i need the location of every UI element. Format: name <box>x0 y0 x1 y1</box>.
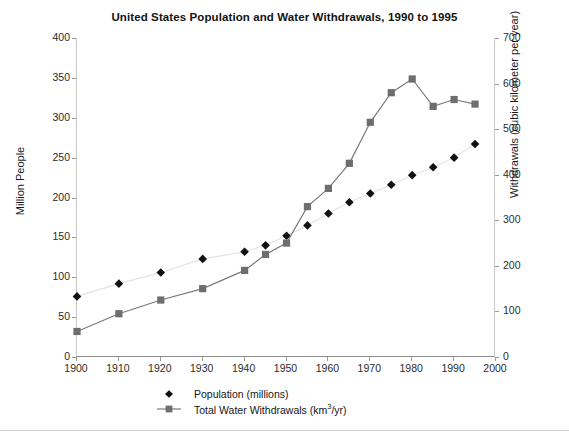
y-axis-right-title: Withdrawals (cubic kilometer per year) <box>508 0 520 198</box>
y-axis-left-tick-label: 200 <box>36 191 70 203</box>
legend-label-withdrawals-suffix: /yr) <box>331 403 346 415</box>
y-axis-left-tick-mark <box>72 198 76 199</box>
x-axis-tick-mark <box>411 357 412 361</box>
data-point-marker <box>471 100 478 107</box>
y-axis-left-tick-mark <box>72 118 76 119</box>
legend-label-withdrawals: Total Water Withdrawals (km3/yr) <box>194 402 347 416</box>
plot-area <box>76 38 495 357</box>
data-point-marker <box>366 189 375 198</box>
y-axis-right-tick-label: 0 <box>503 350 543 362</box>
data-point-marker <box>261 241 270 250</box>
diamond-marker-icon <box>150 388 188 400</box>
y-axis-left-tick-label: 400 <box>36 31 70 43</box>
data-point-marker <box>387 180 396 189</box>
x-axis-tick-mark <box>76 357 77 361</box>
data-point-marker <box>324 209 333 218</box>
data-point-marker <box>283 239 290 246</box>
y-axis-left-tick-mark <box>72 277 76 278</box>
series-line-withdrawals <box>77 79 475 331</box>
y-axis-left-tick-label: 0 <box>36 350 70 362</box>
data-point-marker <box>408 171 417 180</box>
y-axis-left-tick-label: 100 <box>36 270 70 282</box>
x-axis-tick-mark <box>453 357 454 361</box>
y-axis-left-tick-mark <box>72 158 76 159</box>
data-point-marker <box>240 247 249 256</box>
legend-item-withdrawals: Total Water Withdrawals (km3/yr) <box>150 401 347 416</box>
y-axis-right-tick-label: 300 <box>503 213 543 225</box>
y-axis-right-tick-mark <box>495 175 499 176</box>
y-axis-left-tick-label: 150 <box>36 230 70 242</box>
series-canvas <box>77 38 496 357</box>
data-point-marker <box>450 153 459 162</box>
data-point-marker <box>199 285 206 292</box>
data-point-marker <box>409 75 416 82</box>
x-axis-tick-mark <box>160 357 161 361</box>
x-axis-tick-mark <box>202 357 203 361</box>
square-line-marker-icon <box>150 403 188 415</box>
legend-label-withdrawals-prefix: Total Water Withdrawals (km <box>194 403 327 415</box>
y-axis-right-tick-mark <box>495 311 499 312</box>
y-axis-right-tick-mark <box>495 266 499 267</box>
x-axis-tick-mark <box>495 357 496 361</box>
chart-legend: Population (millions) Total Water Withdr… <box>150 386 347 416</box>
data-point-marker <box>198 255 207 264</box>
x-axis-tick-mark <box>286 357 287 361</box>
y-axis-left-title: Million People <box>14 121 26 241</box>
y-axis-right-tick-label: 200 <box>503 259 543 271</box>
data-point-marker <box>471 140 480 149</box>
data-point-marker <box>346 160 353 167</box>
data-point-marker <box>430 103 437 110</box>
data-point-marker <box>115 310 122 317</box>
data-point-marker <box>304 203 311 210</box>
data-point-marker <box>73 292 82 301</box>
y-axis-left-tick-label: 50 <box>36 310 70 322</box>
data-point-marker <box>367 119 374 126</box>
x-axis-tick-mark <box>118 357 119 361</box>
y-axis-left-tick-mark <box>72 78 76 79</box>
y-axis-left-tick-mark <box>72 317 76 318</box>
y-axis-left-tick-label: 250 <box>36 151 70 163</box>
y-axis-right-tick-mark <box>495 220 499 221</box>
x-axis-tick-label: 2000 <box>470 362 520 374</box>
y-axis-left-tick-mark <box>72 38 76 39</box>
y-axis-right-tick-label: 100 <box>503 304 543 316</box>
data-point-marker <box>73 328 80 335</box>
legend-label-population: Population (millions) <box>194 388 289 400</box>
data-point-marker <box>241 267 248 274</box>
data-point-marker <box>157 268 166 277</box>
data-point-marker <box>429 163 438 172</box>
x-axis-tick-mark <box>244 357 245 361</box>
data-point-marker <box>303 221 312 230</box>
y-axis-left-tick-mark <box>72 237 76 238</box>
x-axis-tick-mark <box>369 357 370 361</box>
chart-figure: United States Population and Water Withd… <box>0 0 569 431</box>
y-axis-right-tick-mark <box>495 129 499 130</box>
data-point-marker <box>115 279 124 288</box>
x-axis-tick-mark <box>327 357 328 361</box>
data-point-marker <box>451 96 458 103</box>
y-axis-left-tick-label: 350 <box>36 71 70 83</box>
chart-title: United States Population and Water Withd… <box>0 11 569 23</box>
data-point-marker <box>388 89 395 96</box>
y-axis-right-tick-mark <box>495 38 499 39</box>
y-axis-left-tick-label: 300 <box>36 111 70 123</box>
y-axis-right-tick-mark <box>495 84 499 85</box>
data-point-marker <box>262 251 269 258</box>
data-point-marker <box>325 185 332 192</box>
series-line-population <box>77 144 475 296</box>
data-point-marker <box>345 198 354 207</box>
data-point-marker <box>157 296 164 303</box>
legend-item-population: Population (millions) <box>150 386 347 401</box>
